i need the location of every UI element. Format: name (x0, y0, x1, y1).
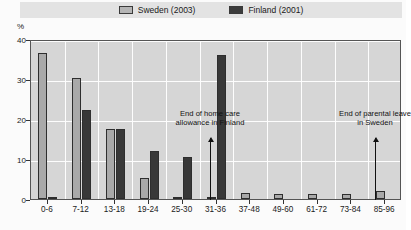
gridline-vertical (301, 41, 302, 199)
x-axis-tick-mark (148, 200, 149, 204)
bar-sweden-73-84 (342, 194, 351, 199)
chart-annotation: End of parental leavein Sweden (339, 110, 411, 128)
bar-sweden-85-96 (376, 191, 385, 199)
bar-finland-0-6 (48, 197, 57, 199)
x-axis-tick-mark (384, 200, 385, 204)
legend-label-sweden: Sweden (2003) (138, 5, 196, 15)
x-axis-tick-label: 7-12 (72, 205, 88, 214)
x-axis-tick-mark (81, 200, 82, 204)
gridline-vertical (335, 41, 336, 199)
annotation-line-2: in Sweden (339, 119, 411, 128)
x-axis-tick-label: 19-24 (138, 205, 159, 214)
y-axis-tick-mark (26, 80, 30, 81)
y-axis-tick-label: 30 (17, 76, 26, 85)
x-axis-labels: 0-67-1213-1819-2425-3031-3637-4849-6061-… (30, 205, 401, 219)
legend-swatch-sweden-icon (119, 6, 133, 14)
bar-sweden-25-30 (173, 197, 182, 199)
x-axis-tick-mark (216, 200, 217, 204)
x-axis-tick-label: 25-30 (171, 205, 192, 214)
gridline-vertical (166, 41, 167, 199)
y-axis-tick-mark (26, 160, 30, 161)
gridline-horizontal (31, 81, 400, 82)
bar-sweden-0-6 (38, 53, 47, 199)
y-axis-tick-label: 20 (17, 116, 26, 125)
x-axis-tick-label: 49-60 (272, 205, 293, 214)
legend-label-finland: Finland (2001) (248, 5, 303, 15)
gridline-vertical (132, 41, 133, 199)
annotation-arrow-icon (210, 138, 211, 200)
x-axis-tick-label: 85-96 (374, 205, 395, 214)
bar-finland-25-30 (183, 157, 192, 199)
annotation-arrow-icon (375, 138, 376, 200)
x-axis-tick-mark (317, 200, 318, 204)
bar-sweden-37-48 (241, 193, 250, 199)
x-axis-tick-mark (283, 200, 284, 204)
y-axis-tick-mark (26, 120, 30, 121)
bar-finland-19-24 (150, 151, 159, 199)
x-axis-tick-label: 31-36 (205, 205, 226, 214)
bar-sweden-49-60 (274, 194, 283, 199)
x-axis-tick-mark (182, 200, 183, 204)
x-axis-tick-mark (249, 200, 250, 204)
bar-finland-13-18 (116, 129, 125, 199)
y-axis-unit-label: % (17, 22, 24, 31)
bar-sweden-7-12 (72, 78, 81, 199)
x-axis-tick-mark (114, 200, 115, 204)
x-axis-tick-label: 73-84 (340, 205, 361, 214)
chart-annotation: End of home careallowance in Finland (176, 110, 245, 128)
y-axis-tick-label: 40 (17, 36, 26, 45)
x-axis-tick-label: 37-48 (239, 205, 260, 214)
x-axis-tick-label: 13-18 (104, 205, 125, 214)
gridline-vertical (267, 41, 268, 199)
x-axis-tick-mark (350, 200, 351, 204)
y-axis-tick-mark (26, 200, 30, 201)
y-axis-tick-label: 10 (17, 156, 26, 165)
bar-sweden-19-24 (140, 178, 149, 199)
x-axis-tick-label: 61-72 (306, 205, 327, 214)
x-axis-tick-label: 0-6 (41, 205, 53, 214)
gridline-horizontal (31, 41, 400, 42)
y-axis-tick-mark (26, 40, 30, 41)
legend-item-sweden: Sweden (2003) (119, 5, 196, 15)
gridline-vertical (98, 41, 99, 199)
legend-item-finland: Finland (2001) (229, 5, 303, 15)
bar-sweden-13-18 (106, 129, 115, 199)
x-axis-tick-mark (47, 200, 48, 204)
bar-sweden-61-72 (308, 194, 317, 199)
bar-finland-7-12 (82, 110, 91, 199)
gridline-vertical (65, 41, 66, 199)
legend-swatch-finland-icon (229, 6, 243, 14)
annotation-line-2: allowance in Finland (176, 119, 245, 128)
chart-legend: Sweden (2003) Finland (2001) (20, 2, 402, 18)
y-axis-labels: 010203040 (6, 40, 26, 200)
bar-sweden-31-36 (207, 197, 216, 199)
